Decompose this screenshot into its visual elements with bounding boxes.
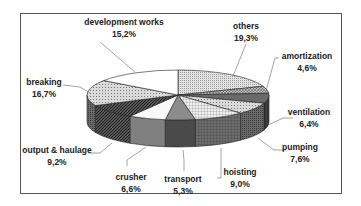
leader-line bbox=[63, 85, 90, 93]
pie-side-crusher bbox=[130, 116, 165, 147]
label-hoisting-name: hoisting bbox=[223, 166, 256, 178]
leader-line bbox=[100, 42, 135, 72]
label-development-works: development works 15,2% bbox=[84, 16, 163, 40]
pie-side-transport bbox=[165, 120, 195, 147]
label-transport-name: transport bbox=[164, 173, 201, 185]
label-crusher: crusher 6,6% bbox=[115, 171, 146, 195]
label-development-works-pct: 15,2% bbox=[84, 28, 163, 40]
label-amortization: amortization 4,6% bbox=[282, 50, 333, 74]
label-output-haulage-pct: 9,2% bbox=[22, 156, 91, 168]
leader-line bbox=[266, 58, 279, 91]
label-breaking: breaking 16,7% bbox=[26, 76, 61, 100]
label-hoisting: hoisting 9,0% bbox=[223, 166, 256, 190]
label-breaking-pct: 16,7% bbox=[26, 88, 61, 100]
label-output-haulage-name: output & haulage bbox=[22, 144, 91, 156]
label-others: others 19,3% bbox=[233, 20, 259, 44]
leader-line bbox=[127, 147, 146, 166]
label-transport-pct: 5,3% bbox=[164, 185, 201, 197]
label-ventilation-pct: 6,4% bbox=[288, 118, 331, 130]
label-output-haulage: output & haulage 9,2% bbox=[22, 144, 91, 168]
label-amortization-name: amortization bbox=[282, 50, 333, 62]
label-transport: transport 5,3% bbox=[164, 173, 201, 197]
label-pumping: pumping 7,6% bbox=[282, 141, 318, 165]
label-ventilation: ventilation 6,4% bbox=[288, 106, 331, 130]
label-pumping-pct: 7,6% bbox=[282, 153, 318, 165]
leader-line bbox=[217, 148, 221, 178]
label-crusher-name: crusher bbox=[115, 171, 146, 183]
label-pumping-name: pumping bbox=[282, 141, 318, 153]
label-hoisting-pct: 9,0% bbox=[223, 178, 256, 190]
label-crusher-pct: 6,6% bbox=[115, 183, 146, 195]
label-amortization-pct: 4,6% bbox=[282, 62, 333, 74]
leader-line bbox=[233, 44, 246, 76]
label-breaking-name: breaking bbox=[26, 76, 61, 88]
leader-line bbox=[183, 150, 184, 171]
label-others-name: others bbox=[233, 20, 259, 32]
label-development-works-name: development works bbox=[84, 16, 163, 28]
label-others-pct: 19,3% bbox=[233, 32, 259, 44]
label-ventilation-name: ventilation bbox=[288, 106, 331, 118]
